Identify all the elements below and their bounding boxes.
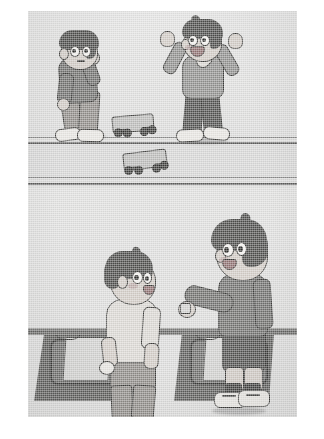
arm-near-boy-dark-outfit bbox=[252, 278, 273, 329]
pupil-left-boy-light-shirt bbox=[134, 275, 139, 280]
pupil-left-boy-dark-outfit bbox=[224, 247, 229, 253]
character-boy-in-dark-outfit bbox=[178, 217, 288, 417]
pupil-right-bending-boy bbox=[84, 49, 88, 53]
bottom-panel bbox=[28, 187, 297, 417]
road-line-4 bbox=[28, 183, 297, 185]
character-boy-in-light-shirt bbox=[88, 245, 176, 415]
forearm-right-boy-light-shirt bbox=[143, 343, 159, 370]
illustration-frame bbox=[28, 11, 297, 417]
hand-left-bending-boy bbox=[57, 98, 70, 111]
screenshot-root bbox=[0, 0, 324, 439]
hand-left-boy-light-shirt bbox=[99, 361, 115, 375]
pupil-left-cheering-boy bbox=[190, 38, 194, 42]
leg-right-boy-light-shirt bbox=[131, 384, 157, 417]
shoe-laces-left-boy-dark-outfit bbox=[222, 395, 236, 397]
shoe-laces-right-boy-dark-outfit bbox=[246, 394, 260, 396]
caption bbox=[28, 417, 297, 435]
ear-bending-boy bbox=[59, 48, 69, 60]
skateboard-on-road bbox=[122, 148, 168, 171]
shoe-right-bending-boy bbox=[77, 129, 104, 143]
hair-side-cheering-boy bbox=[210, 27, 222, 49]
shoe-right-boy-dark-outfit bbox=[238, 390, 270, 407]
pupil-left-bending-boy bbox=[72, 49, 76, 53]
cheek-boy-light-shirt bbox=[128, 283, 138, 289]
pupil-right-cheering-boy bbox=[202, 38, 206, 42]
hand-left-cheering-boy bbox=[160, 31, 175, 47]
shadow-boy-dark-outfit bbox=[212, 407, 266, 415]
hand-right-cheering-boy bbox=[228, 33, 243, 49]
top-panel bbox=[28, 11, 297, 187]
road-line-3 bbox=[28, 177, 297, 178]
character-cheering-boy-right bbox=[154, 17, 258, 145]
ear-boy-light-shirt bbox=[117, 275, 128, 289]
held-object-boy-dark-outfit bbox=[180, 303, 191, 314]
pupil-right-boy-light-shirt bbox=[145, 276, 149, 281]
pupil-right-boy-dark-outfit bbox=[238, 246, 243, 252]
shoe-right-cheering-boy bbox=[202, 126, 230, 142]
mouth-bending-boy bbox=[77, 60, 85, 62]
shoe-left-cheering-boy bbox=[176, 128, 205, 143]
skateboard-on-pavement bbox=[111, 113, 154, 134]
